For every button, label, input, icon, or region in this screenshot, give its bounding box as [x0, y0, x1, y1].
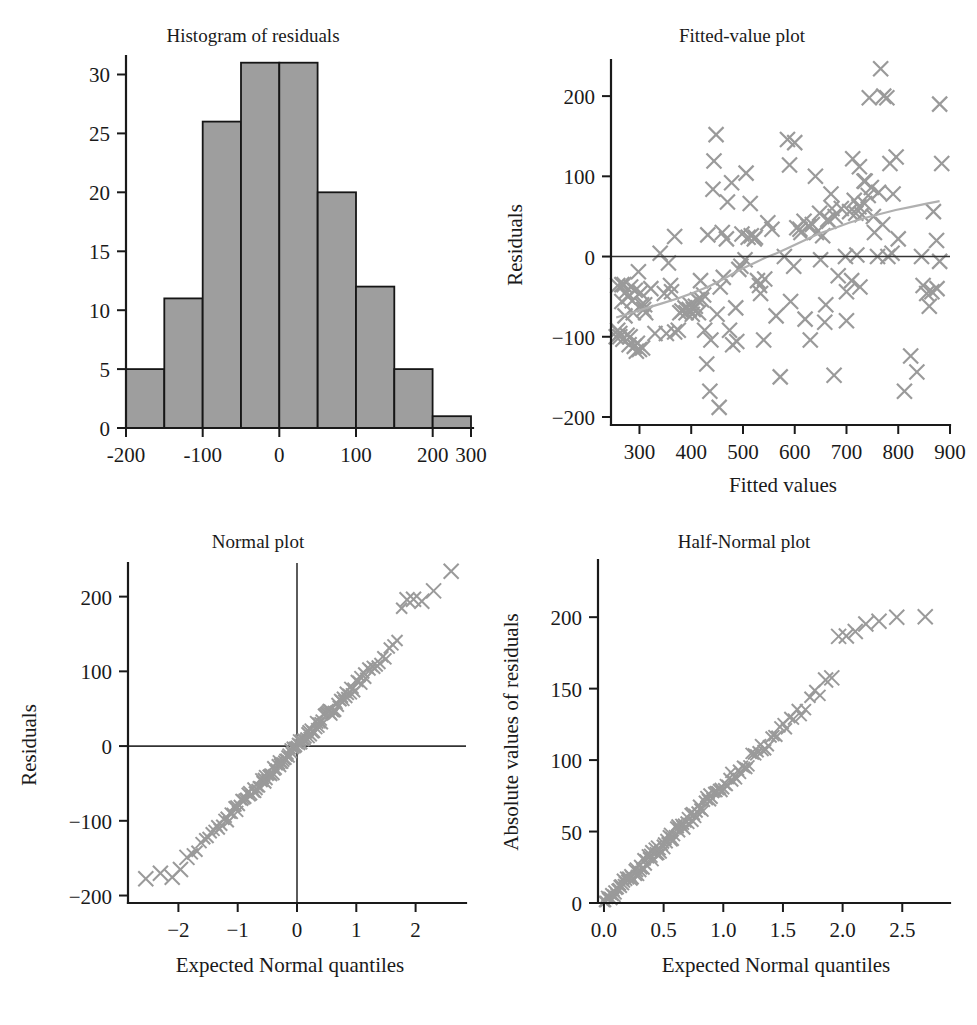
fv-y-tick-label: −200	[552, 406, 595, 430]
histogram-bar	[318, 192, 356, 428]
half-normal-plot-y-ticks	[589, 617, 598, 903]
half-normal-plot-svg: Half-Normal plot 050100150200 0.00.51.01…	[488, 510, 977, 1025]
histogram-bar	[164, 298, 202, 428]
hn-x-tick-label: 0.0	[591, 918, 617, 942]
fv-x-tick-label: 400	[675, 440, 707, 464]
hn-y-tick-label: 200	[551, 606, 583, 630]
hn-y-tick-label: 50	[561, 821, 582, 845]
fitted-value-title: Fitted-value plot	[679, 25, 806, 46]
normal-plot-title: Normal plot	[212, 531, 305, 552]
histogram-svg: Histogram of residuals	[0, 0, 488, 510]
hn-y-tick-label: 0	[572, 892, 583, 916]
fv-x-tick-label: 800	[882, 440, 914, 464]
fitted-value-x-tick-labels: 300400500600700800900	[624, 440, 966, 464]
half-normal-plot-x-axis-label: Expected Normal quantiles	[662, 953, 891, 977]
fv-x-tick-label: 700	[831, 440, 863, 464]
fv-y-tick-label: −100	[552, 326, 595, 350]
fitted-value-x-ticks	[639, 425, 950, 434]
fv-x-tick-label: 300	[624, 440, 656, 464]
histogram-y-ticks	[117, 75, 126, 429]
histogram-x-ticks	[126, 428, 471, 437]
np-y-tick-label: −100	[69, 810, 112, 834]
half-normal-plot-y-axis-label: Absolute values of residuals	[499, 613, 523, 850]
histogram-x-tick-label: 300	[455, 443, 487, 467]
panel-half-normal-plot: Half-Normal plot 050100150200 0.00.51.01…	[488, 510, 977, 1025]
histogram-bars	[126, 63, 471, 428]
half-normal-plot-x-ticks	[604, 903, 902, 912]
half-normal-plot-y-tick-labels: 050100150200	[551, 606, 583, 916]
np-x-tick-label: 1	[351, 918, 362, 942]
np-y-tick-label: 100	[81, 660, 113, 684]
np-x-tick-label: −2	[167, 918, 189, 942]
hn-y-tick-label: 100	[551, 749, 583, 773]
histogram-bar	[126, 369, 164, 428]
fitted-value-points	[609, 61, 950, 415]
histogram-y-tick-label: 15	[89, 240, 110, 264]
np-y-tick-label: −200	[69, 885, 112, 909]
histogram-bar	[241, 63, 279, 428]
np-x-tick-label: −1	[227, 918, 249, 942]
normal-plot-y-ticks	[119, 597, 128, 896]
histogram-bar	[394, 369, 432, 428]
histogram-y-tick-label: 25	[89, 122, 110, 146]
fv-x-tick-label: 600	[779, 440, 811, 464]
fitted-value-x-axis-label: Fitted values	[729, 473, 837, 497]
half-normal-plot-title: Half-Normal plot	[678, 531, 811, 552]
fitted-value-y-ticks	[602, 96, 611, 417]
normal-plot-svg: Normal plot −200−1000100200 −2−1012 Expe…	[0, 510, 488, 1025]
histogram-bar	[356, 287, 394, 428]
histogram-x-tick-label: 100	[340, 443, 372, 467]
fv-x-tick-label: 500	[727, 440, 759, 464]
hn-x-tick-label: 2.5	[889, 918, 915, 942]
hn-x-tick-label: 2.0	[829, 918, 855, 942]
panel-normal-plot: Normal plot −200−1000100200 −2−1012 Expe…	[0, 510, 488, 1025]
fitted-value-y-tick-labels: −200−1000100200	[552, 85, 595, 430]
normal-plot-x-ticks	[178, 903, 415, 912]
hn-y-tick-label: 150	[551, 678, 583, 702]
histogram-y-tick-label: 10	[89, 299, 110, 323]
fv-y-tick-label: 100	[564, 165, 596, 189]
fv-y-tick-label: 200	[564, 85, 596, 109]
histogram-x-tick-label: -100	[183, 443, 222, 467]
histogram-y-tick-label: 20	[89, 181, 110, 205]
panel-histogram: Histogram of residuals	[0, 0, 488, 510]
residual-diagnostics-figure: Histogram of residuals	[0, 0, 977, 1025]
histogram-y-tick-label: 30	[89, 63, 110, 87]
histogram-y-tick-label: 5	[100, 358, 111, 382]
normal-plot-x-tick-labels: −2−1012	[167, 918, 421, 942]
fv-y-tick-label: 0	[585, 246, 596, 270]
hn-x-tick-label: 1.0	[710, 918, 736, 942]
normal-plot-y-tick-labels: −200−1000100200	[69, 586, 112, 909]
histogram-x-tick-label: 0	[274, 443, 285, 467]
np-y-tick-label: 200	[81, 586, 113, 610]
histogram-bar	[279, 63, 317, 428]
half-normal-plot-x-tick-labels: 0.00.51.01.52.02.5	[591, 918, 916, 942]
hn-x-tick-label: 1.5	[770, 918, 796, 942]
histogram-y-tick-label: 0	[100, 417, 111, 441]
np-y-tick-label: 0	[102, 735, 113, 759]
histogram-bar	[203, 122, 241, 428]
histogram-x-tick-label: 200	[417, 443, 449, 467]
normal-plot-y-axis-label: Residuals	[17, 704, 41, 786]
fitted-value-svg: Fitted-value plot −200−1000100200 300400…	[488, 0, 977, 510]
np-x-tick-label: 2	[410, 918, 421, 942]
normal-plot-points	[138, 564, 458, 886]
hn-x-tick-label: 0.5	[651, 918, 677, 942]
normal-plot-x-axis-label: Expected Normal quantiles	[176, 953, 405, 977]
histogram-bar	[433, 416, 471, 428]
fitted-value-y-axis-label: Residuals	[503, 204, 527, 286]
histogram-title: Histogram of residuals	[166, 25, 339, 46]
half-normal-plot-points	[599, 609, 933, 907]
histogram-x-tick-label: -200	[107, 443, 146, 467]
fv-x-tick-label: 900	[934, 440, 966, 464]
np-x-tick-label: 0	[292, 918, 303, 942]
panel-fitted-value: Fitted-value plot −200−1000100200 300400…	[488, 0, 977, 510]
